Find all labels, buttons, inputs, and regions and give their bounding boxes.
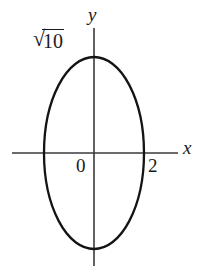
x-intercept-label: 2 bbox=[148, 156, 158, 175]
ellipse-figure: y x 0 2 √10 bbox=[0, 0, 204, 269]
origin-label: 0 bbox=[76, 156, 86, 175]
x-axis-label: x bbox=[183, 138, 191, 157]
radical-expression: √10 bbox=[33, 28, 64, 50]
y-intercept-label: √10 bbox=[33, 28, 64, 50]
radicand-value: 10 bbox=[42, 29, 64, 51]
y-axis-label: y bbox=[88, 5, 96, 24]
ellipse-graph-canvas bbox=[0, 0, 204, 269]
